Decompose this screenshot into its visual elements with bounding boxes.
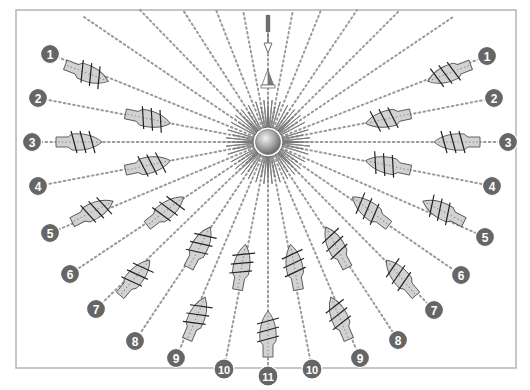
ship-hull <box>114 255 156 301</box>
badge-number: 5 <box>47 227 54 241</box>
number-badge: 7 <box>87 300 106 319</box>
badge-number: 4 <box>489 180 496 194</box>
number-badge: 8 <box>126 332 145 351</box>
number-badge: 4 <box>483 177 502 196</box>
badge-number: 6 <box>67 268 74 282</box>
ship-icon <box>424 55 475 92</box>
arrow-fletching-icon <box>266 15 270 32</box>
ship-icon <box>56 131 102 153</box>
badge-number: 11 <box>262 371 274 383</box>
badge-number: 3 <box>29 136 36 150</box>
arrow-head-icon <box>264 43 272 53</box>
wind-arrow-icon <box>261 15 275 88</box>
vane-base <box>261 85 275 88</box>
badge-number: 9 <box>173 352 180 366</box>
ship-hull <box>229 243 253 291</box>
ship-icon <box>123 103 173 134</box>
ship-hull <box>347 190 393 231</box>
ship-icon <box>112 253 158 302</box>
ship-icon <box>316 222 357 273</box>
ship-hull <box>124 106 172 132</box>
ray-line <box>268 142 485 237</box>
compass-rose <box>220 94 316 190</box>
ship-icon <box>177 293 215 344</box>
ray-line <box>268 10 321 142</box>
vane-sail-icon <box>268 69 274 85</box>
ray-line <box>216 10 268 142</box>
ship-hull <box>380 255 422 301</box>
number-badge: 5 <box>476 228 495 247</box>
number-badge: 3 <box>23 133 42 152</box>
badge-number: 8 <box>395 334 402 348</box>
badge-number: 9 <box>357 352 364 366</box>
number-badge: 5 <box>41 224 60 243</box>
ship-icon <box>378 253 424 302</box>
number-badge: 4 <box>29 177 48 196</box>
number-badge: 7 <box>425 301 444 320</box>
badge-number: 2 <box>491 92 498 106</box>
ship-icon <box>140 188 190 234</box>
number-badge: 10 <box>302 359 322 379</box>
badge-number: 2 <box>35 92 42 106</box>
ship-icon <box>67 191 118 231</box>
number-badge: 6 <box>452 266 471 285</box>
ship-hull <box>323 294 356 343</box>
vane-sail-icon <box>262 69 268 85</box>
badge-number: 1 <box>484 50 491 64</box>
badge-number: 8 <box>132 335 139 349</box>
ship-icon <box>321 293 359 344</box>
badge-number: 10 <box>218 364 230 376</box>
number-badge: 3 <box>499 133 518 152</box>
points-of-sail-diagram: 123456789101110987654321 <box>0 0 530 390</box>
number-badge: 8 <box>389 331 408 350</box>
ship-icon <box>363 103 413 134</box>
badge-number: 4 <box>35 180 42 194</box>
ship-icon <box>280 242 310 291</box>
number-badge: 9 <box>351 349 370 368</box>
badge-number: 6 <box>458 269 465 283</box>
badge-number: 3 <box>505 136 512 150</box>
number-badge: 2 <box>485 89 504 108</box>
ship-icon <box>227 242 257 291</box>
badge-number: 1 <box>47 48 54 62</box>
badge-number: 7 <box>431 304 438 318</box>
ship-hull <box>62 57 111 89</box>
number-badge: 9 <box>167 349 186 368</box>
ship-hull <box>425 57 474 89</box>
ship-icon <box>257 311 279 357</box>
number-badge: 1 <box>478 47 497 66</box>
ship-icon <box>61 55 112 92</box>
number-badge: 1 <box>41 45 60 64</box>
number-badge: 2 <box>29 89 48 108</box>
badge-number: 10 <box>306 364 318 376</box>
ship-icon <box>434 131 480 153</box>
badge-number: 7 <box>93 303 100 317</box>
rose-hub-ball <box>256 130 281 155</box>
ship-hull <box>180 294 213 343</box>
ship-icon <box>123 150 173 181</box>
ship-icon <box>363 150 413 181</box>
ship-icon <box>179 222 220 273</box>
number-badge: 11 <box>258 366 278 386</box>
number-badge: 10 <box>214 359 234 379</box>
number-badge: 6 <box>61 265 80 284</box>
badge-number: 5 <box>482 231 489 245</box>
ship-hull <box>181 223 217 271</box>
ship-hull <box>364 153 412 179</box>
